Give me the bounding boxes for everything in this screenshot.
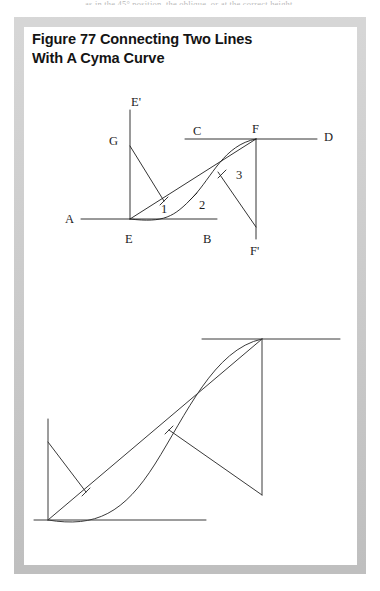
lower-tick-mid <box>165 426 173 434</box>
label-F: F <box>252 122 259 136</box>
page-cut-off-text: as in the 45° position, the oblique, or … <box>0 0 380 12</box>
diagram-upper-labels: E' G C F D 1 2 3 A E B F' <box>65 95 333 258</box>
label-E: E <box>125 232 133 246</box>
label-1: 1 <box>161 202 167 216</box>
label-3: 3 <box>236 168 242 182</box>
label-G: G <box>109 134 118 148</box>
figure-panel: Figure 77 Connecting Two Lines With A Cy… <box>24 27 357 565</box>
label-A: A <box>65 212 74 226</box>
label-D: D <box>324 130 333 144</box>
diagram-lower <box>34 339 340 522</box>
lower-line-g <box>48 442 86 492</box>
tick-mark-2 <box>189 193 197 201</box>
figure-diagrams: E' G C F D 1 2 3 A E B F' <box>24 27 357 565</box>
lower-line-diagonal <box>48 339 262 520</box>
lower-line-f <box>169 430 262 495</box>
lower-tick-lower <box>82 488 90 496</box>
label-C: C <box>193 124 201 138</box>
label-B: B <box>203 232 211 246</box>
line-G-to-tick1 <box>130 146 164 201</box>
label-Fprime: F' <box>250 244 259 258</box>
label-Eprime: E' <box>131 95 141 109</box>
label-2: 2 <box>199 198 205 212</box>
